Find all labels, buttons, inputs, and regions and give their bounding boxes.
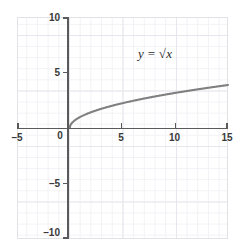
x-label-5: 5 [118,133,124,143]
y-label-5: 5 [40,68,60,78]
x-axis [17,128,228,130]
x-label-10: 10 [169,133,180,143]
y-tick-neg5 [63,183,68,184]
x-label-zero: 0 [57,131,63,141]
sqrt-curve [70,85,228,128]
y-label-neg5: –5 [37,179,60,189]
equation-annotation: y = √x [138,46,172,62]
x-tick-10 [175,123,176,128]
x-axis-right-cap [226,123,228,129]
y-tick-5 [63,72,68,73]
equation-lhs: y [138,46,144,61]
graph-figure: –5 0 5 10 15 10 5 –5 –10 y = √x [0,0,245,245]
equation-operator: = [148,46,156,61]
x-tick-5 [121,123,122,128]
equation-argument: x [166,46,172,61]
y-label-neg10: –10 [34,228,60,238]
y-axis-top-cap [63,17,69,19]
x-axis-left-cap [17,123,19,129]
y-axis [67,17,69,239]
x-label-15: 15 [221,133,232,143]
curve-layer [0,0,245,245]
y-label-10: 10 [40,13,60,23]
y-axis-bottom-cap [63,237,69,239]
x-label-neg5: –5 [11,133,22,143]
